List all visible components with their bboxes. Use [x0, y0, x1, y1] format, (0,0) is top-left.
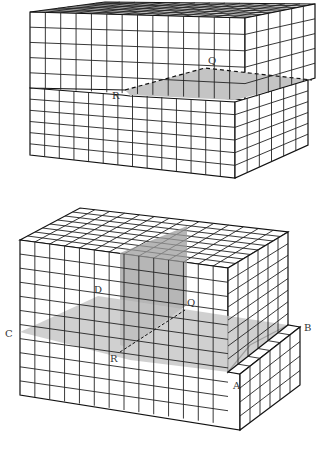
label-q-top: Q	[208, 55, 216, 66]
label-d: D	[94, 284, 102, 295]
label-b: B	[304, 322, 311, 333]
label-c: C	[5, 328, 13, 339]
label-r-top: R	[112, 90, 120, 101]
label-a: A	[232, 380, 241, 391]
block-diagrams: Q R D Q C B R A	[0, 0, 320, 449]
top-block-diagram: Q R	[30, 2, 315, 178]
bottom-block-diagram: D Q C B R A	[5, 208, 311, 430]
label-r-bottom: R	[110, 353, 118, 364]
label-q-bottom: Q	[187, 297, 195, 308]
